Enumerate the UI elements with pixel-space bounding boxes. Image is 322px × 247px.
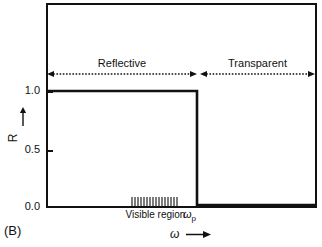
omega-p-label: ωp (183, 208, 213, 225)
y-tick-0.5 (46, 150, 53, 152)
y-tick-label-0.0-wrap: 0.0 (8, 201, 40, 212)
x-axis-title: ω (170, 227, 179, 241)
y-tick-label-1.0-wrap: 1.0 (8, 85, 40, 96)
y-axis-title: R (5, 130, 25, 146)
visible-region-hatch (131, 197, 180, 206)
plot-frame (46, 3, 317, 208)
y-tick-label-0.0: 0.0 (12, 201, 40, 212)
x-axis-right-arrow-icon (186, 230, 212, 239)
r-axis-up-arrow-icon (18, 107, 28, 127)
reflective-region-label: Reflective (46, 57, 198, 70)
transparent-region-label: Transparent (198, 57, 317, 70)
omega-p-subscript: p (192, 214, 196, 223)
omega-p-symbol: ω (183, 208, 192, 220)
x-axis-title-wrap: ω (170, 226, 230, 242)
y-tick-label-1.0: 1.0 (12, 85, 40, 96)
figure-panel-b: 1.0 0.5 0.0 R ω Ref (0, 0, 322, 247)
y-tick-1.0 (46, 91, 53, 93)
panel-letter: (B) (4, 223, 21, 239)
